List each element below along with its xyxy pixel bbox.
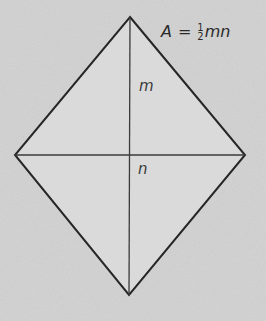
rhombus-diagram: m n A = 1 2 mn — [0, 0, 266, 321]
formula-variables: mn — [205, 22, 231, 41]
area-formula: A = 1 2 mn — [161, 22, 230, 41]
rhombus-figure — [0, 0, 266, 321]
formula-fraction: 1 2 — [197, 23, 203, 41]
formula-equals: = — [178, 22, 191, 41]
formula-lhs: A — [161, 22, 172, 41]
fraction-denominator: 2 — [197, 32, 203, 41]
diagonal-n-label: n — [138, 162, 148, 177]
diagonal-m-label: m — [139, 79, 154, 94]
